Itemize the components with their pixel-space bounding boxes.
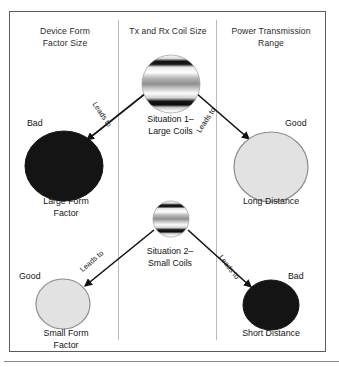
evaluation-label-long-distance: Good: [285, 118, 307, 128]
column-divider-left: [118, 20, 119, 340]
caption-small-form-factor: Small Form Factor: [18, 328, 114, 351]
caption-line: Factor: [18, 208, 114, 220]
column-heading-power-transmission-range: Power Transmission Range: [220, 26, 322, 49]
caption-large-form-factor: Large Form Factor: [18, 196, 114, 219]
column-heading-device-form-factor-size: Device Form Factor Size: [16, 26, 114, 49]
column-heading-line: Power Transmission: [220, 26, 322, 38]
caption-long-distance: Long Distance: [222, 196, 320, 208]
column-heading-line: Device Form: [16, 26, 114, 38]
caption-short-distance: Short Distance: [220, 328, 322, 340]
evaluation-label-large-form-factor: Bad: [27, 118, 43, 128]
caption-line: Situation 2–: [122, 246, 218, 258]
column-heading-tx-rx-coil-size: Tx and Rx Coil Size: [122, 26, 214, 38]
column-heading-line: Tx and Rx Coil Size: [122, 26, 214, 38]
column-heading-line: Range: [220, 38, 322, 50]
column-heading-line: Factor Size: [16, 38, 114, 50]
caption-line: Small Form: [18, 328, 114, 340]
diagram-figure: Device Form Factor Size Tx and Rx Coil S…: [0, 0, 339, 367]
evaluation-label-small-form-factor: Good: [19, 271, 41, 281]
caption-line: Short Distance: [220, 328, 322, 340]
caption-line: Large Form: [18, 196, 114, 208]
caption-line: Long Distance: [222, 196, 320, 208]
caption-line: Small Coils: [122, 258, 218, 270]
caption-situation2: Situation 2– Small Coils: [122, 246, 218, 269]
column-divider-right: [216, 20, 217, 340]
diagram-frame: [9, 11, 326, 352]
caption-line: Factor: [18, 340, 114, 352]
page-rule: [4, 361, 339, 362]
evaluation-label-short-distance: Bad: [288, 271, 304, 281]
